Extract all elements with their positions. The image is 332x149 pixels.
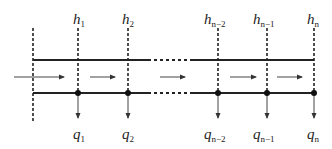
channel-diagram: h1 h2 hn−2 hn−1 hn q1 q2 qn−2 qn−1 qn bbox=[0, 0, 332, 149]
node-dot bbox=[215, 90, 221, 96]
flow-label-n: qn bbox=[307, 126, 320, 144]
head-label-n-1: hn−1 bbox=[253, 11, 275, 29]
node-dot bbox=[75, 90, 81, 96]
head-label-1: h1 bbox=[73, 11, 85, 29]
node-dot bbox=[264, 90, 270, 96]
flow-label-n-1: qn−1 bbox=[253, 126, 275, 144]
head-label-n: hn bbox=[307, 11, 320, 29]
node-dot bbox=[311, 90, 317, 96]
flow-labels: q1 q2 qn−2 qn−1 qn bbox=[73, 126, 320, 144]
head-labels: h1 h2 hn−2 hn−1 hn bbox=[73, 11, 320, 29]
flow-label-n-2: qn−2 bbox=[204, 126, 226, 144]
head-label-n-2: hn−2 bbox=[204, 11, 226, 29]
flow-label-1: q1 bbox=[73, 126, 85, 144]
node-dot bbox=[125, 90, 131, 96]
outflow-arrows bbox=[78, 93, 314, 118]
head-label-2: h2 bbox=[122, 11, 134, 29]
flow-label-2: q2 bbox=[122, 126, 134, 144]
